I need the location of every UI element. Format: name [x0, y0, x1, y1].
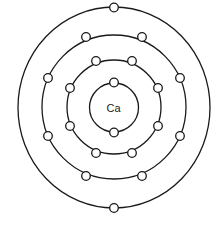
electron: [138, 172, 147, 181]
electron: [110, 78, 119, 87]
electron: [44, 74, 53, 83]
electron: [44, 132, 53, 141]
electron: [138, 33, 147, 42]
electron: [176, 74, 185, 83]
electron: [154, 122, 163, 131]
electron: [128, 149, 137, 158]
electron: [92, 149, 101, 158]
electron: [66, 122, 75, 131]
electron: [176, 132, 185, 141]
nucleus-label: Ca: [106, 102, 121, 114]
electron: [82, 172, 91, 181]
atom-svg: Ca: [0, 0, 224, 227]
electron: [82, 33, 91, 42]
electron: [110, 204, 119, 213]
electron: [92, 57, 101, 66]
electron: [66, 84, 75, 93]
electron: [154, 84, 163, 93]
electron: [110, 3, 119, 12]
bohr-diagram: Ca: [0, 0, 224, 227]
electron: [110, 128, 119, 137]
electron: [128, 57, 137, 66]
